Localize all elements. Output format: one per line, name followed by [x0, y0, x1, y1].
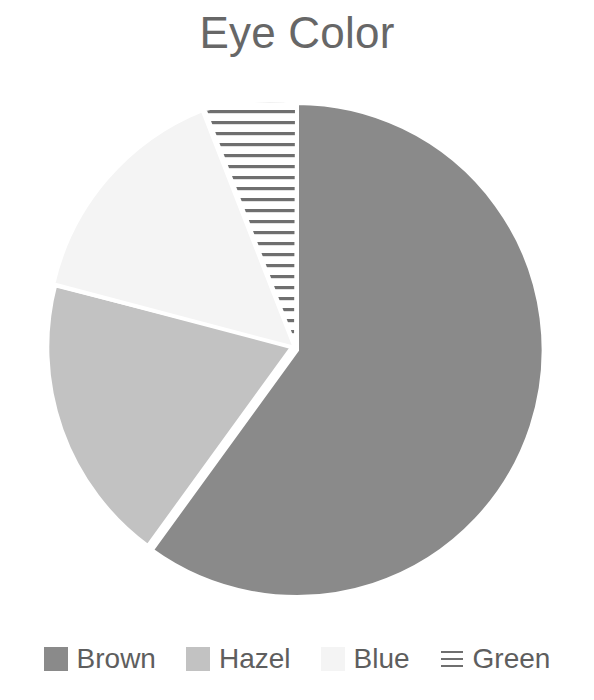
- blue-swatch-icon: [321, 647, 345, 671]
- green-swatch-icon: [440, 647, 464, 671]
- legend-item-blue[interactable]: Blue: [321, 645, 410, 673]
- pie-chart-figure: Eye Color Brown Hazel: [0, 0, 594, 700]
- page-title: Eye Color: [0, 8, 594, 59]
- pie-plot-area: [0, 88, 594, 618]
- brown-swatch-icon: [44, 647, 68, 671]
- legend-item-brown[interactable]: Brown: [44, 645, 156, 673]
- legend-item-hazel[interactable]: Hazel: [186, 645, 291, 673]
- chart-legend: Brown Hazel Blue Green: [0, 636, 594, 682]
- legend-item-green[interactable]: Green: [440, 645, 551, 673]
- legend-label-blue: Blue: [354, 645, 410, 673]
- hazel-swatch-icon: [186, 647, 210, 671]
- legend-label-green: Green: [473, 645, 551, 673]
- legend-label-hazel: Hazel: [219, 645, 291, 673]
- legend-label-brown: Brown: [77, 645, 156, 673]
- pie-svg: [0, 88, 594, 618]
